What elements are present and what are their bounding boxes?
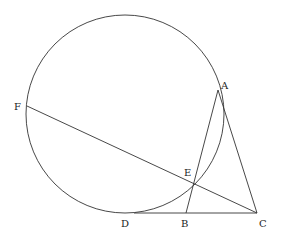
segment-fc xyxy=(27,106,257,213)
label-d: D xyxy=(121,218,129,229)
segment-ac xyxy=(218,90,257,213)
label-a: A xyxy=(220,80,229,91)
label-c: C xyxy=(259,218,267,229)
circle xyxy=(26,15,224,213)
label-f: F xyxy=(14,101,21,112)
geometry-diagram: A B C D E F xyxy=(0,0,282,241)
label-e: E xyxy=(184,167,191,178)
label-b: B xyxy=(181,218,188,229)
segment-ab xyxy=(186,90,218,213)
